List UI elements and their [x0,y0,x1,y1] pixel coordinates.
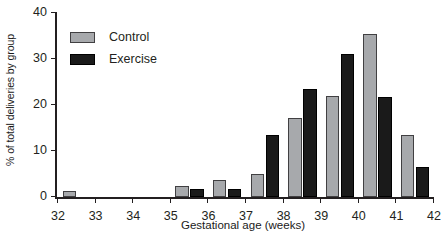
x-axis-tick: 34 [132,197,133,203]
y-axis-tick: 30 [51,58,57,59]
bar-exercise-39 [341,54,355,197]
bar-control-37 [251,174,265,197]
bar-control-39 [326,96,340,197]
y-axis-tick: 10 [51,150,57,151]
bar-control-40 [363,34,377,197]
x-axis-tick: 42 [433,197,434,203]
x-axis-tick: 35 [170,197,171,203]
y-axis-tick-label: 40 [33,5,47,19]
legend-label-exercise: Exercise [109,52,157,66]
bar-exercise-37 [266,135,280,197]
chart-legend: Control Exercise [70,26,157,70]
bar-control-35 [175,186,189,197]
x-axis-tick: 36 [207,197,208,203]
y-axis-tick-label: 20 [33,97,47,111]
legend-item-exercise: Exercise [70,48,157,70]
legend-item-control: Control [70,26,157,48]
bar-exercise-41 [416,167,430,197]
x-axis-tick: 40 [358,197,359,203]
bar-control-32 [63,191,77,197]
y-axis-tick-label: 10 [33,143,47,157]
x-axis-tick: 33 [95,197,96,203]
bar-exercise-35 [190,189,204,197]
legend-swatch-control [70,32,95,43]
y-axis-tick: 40 [51,12,57,13]
x-axis-title: Gestational age (weeks) [55,219,431,231]
bar-control-36 [213,180,227,197]
y-axis-tick-label: 0 [40,189,47,203]
legend-swatch-exercise [70,54,95,65]
bar-exercise-36 [228,189,242,197]
y-axis-tick: 20 [51,104,57,105]
y-axis-title: % of total deliveries by group [1,2,19,198]
x-axis-tick: 39 [320,197,321,203]
bar-control-38 [288,118,302,197]
bar-exercise-38 [303,89,317,197]
bar-chart: % of total deliveries by group 010203040… [0,0,441,242]
x-axis-tick: 38 [283,197,284,203]
x-axis-tick: 41 [395,197,396,203]
bar-exercise-40 [378,97,392,197]
y-axis-tick-label: 30 [33,51,47,65]
bar-control-41 [401,135,415,197]
x-axis-tick: 32 [57,197,58,203]
x-axis-tick: 37 [245,197,246,203]
legend-label-control: Control [109,30,149,44]
